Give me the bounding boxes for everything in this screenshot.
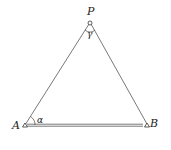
label-P: P — [86, 5, 95, 18]
angle-arc-alpha — [31, 117, 36, 126]
station-marker-P-icon — [88, 21, 92, 25]
station-marker-B-icon — [145, 123, 150, 127]
label-B: B — [149, 117, 158, 130]
label-A: A — [11, 119, 20, 132]
label-alpha: α — [37, 115, 43, 125]
station-marker-A-icon — [23, 123, 28, 127]
triangle-diagram: P A B α γ — [0, 0, 171, 150]
side-AP — [25, 24, 89, 125]
label-gamma: γ — [87, 29, 93, 39]
side-BP — [91, 24, 147, 124]
